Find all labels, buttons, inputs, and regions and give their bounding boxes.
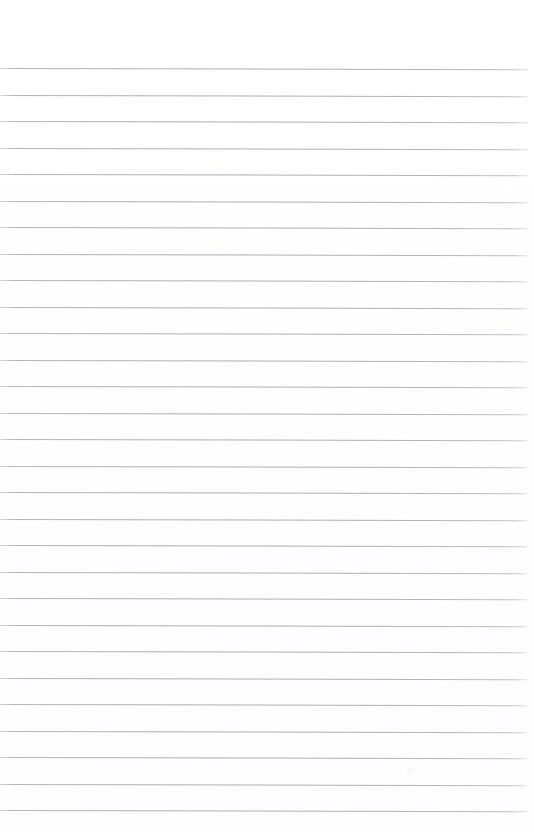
rule-line xyxy=(0,227,527,229)
scanned-page xyxy=(0,0,534,832)
rule-line xyxy=(0,677,526,679)
rule-line xyxy=(0,147,528,149)
rule-line xyxy=(0,624,527,626)
rule-line xyxy=(0,810,526,812)
rule-line xyxy=(0,518,527,520)
rule-line xyxy=(0,306,527,308)
rule-line xyxy=(0,253,527,255)
rule-line xyxy=(0,412,527,414)
rule-line xyxy=(0,386,527,388)
rule-line xyxy=(0,783,526,785)
rule-line xyxy=(0,68,528,70)
rule-line xyxy=(0,359,527,361)
rule-line xyxy=(0,465,527,467)
rule-line xyxy=(0,439,527,441)
rule-line xyxy=(0,94,528,96)
rule-line xyxy=(0,174,528,176)
rule-line xyxy=(0,333,527,335)
rule-line xyxy=(0,730,526,732)
rule-line xyxy=(0,757,526,759)
rule-line xyxy=(0,492,527,494)
rule-line xyxy=(0,571,527,573)
rule-line xyxy=(0,280,527,282)
rule-line xyxy=(0,545,527,547)
rule-line xyxy=(0,704,526,706)
rule-line xyxy=(0,651,527,653)
rule-line xyxy=(0,200,528,202)
ruled-lines-layer xyxy=(0,0,534,832)
rule-line xyxy=(0,598,527,600)
rule-line xyxy=(0,121,528,123)
